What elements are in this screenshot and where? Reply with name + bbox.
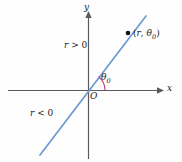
- y-axis: [85, 11, 91, 159]
- region-label-r-positive: r > 0: [64, 41, 87, 50]
- region-positive-operator: >: [71, 40, 79, 50]
- y-axis-arrowhead: [85, 11, 91, 18]
- x-axis: [8, 87, 164, 93]
- region-negative-operator: <: [37, 108, 45, 118]
- point-label-close-paren: ): [156, 28, 160, 38]
- x-axis-label: x: [167, 84, 172, 93]
- angle-theta-subscript: 0: [106, 77, 110, 85]
- region-positive-value: 0: [82, 40, 88, 50]
- origin-label: O: [90, 92, 97, 101]
- angle-label: θ0: [101, 73, 111, 84]
- region-negative-value: 0: [48, 108, 54, 118]
- point-marker-dot: [126, 31, 131, 36]
- y-axis-label: y: [84, 3, 89, 12]
- point-label: (r, θ0): [133, 29, 160, 40]
- polar-line-figure: y x O r > 0 r < 0 θ0 (r, θ0): [0, 0, 182, 162]
- theta-line: [40, 16, 146, 155]
- x-axis-arrowhead: [157, 87, 164, 93]
- region-label-r-negative: r < 0: [30, 109, 53, 118]
- figure-canvas: [0, 0, 182, 162]
